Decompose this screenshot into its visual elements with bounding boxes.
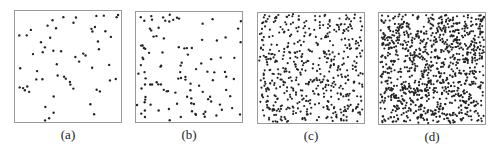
panel-label-c: (c) xyxy=(291,129,331,143)
scatter-panel-b xyxy=(135,11,243,123)
dot-field-a xyxy=(15,11,121,122)
panel-label-b: (b) xyxy=(169,128,209,142)
scatter-panel-d xyxy=(378,12,486,125)
panel-label-d: (d) xyxy=(412,130,452,144)
scatter-panel-a xyxy=(14,10,122,123)
scatter-panel-c xyxy=(257,12,365,124)
dot-field-b xyxy=(136,12,242,122)
panel-label-a: (a) xyxy=(48,128,88,142)
dot-field-d xyxy=(379,13,485,124)
dot-field-c xyxy=(258,13,364,123)
